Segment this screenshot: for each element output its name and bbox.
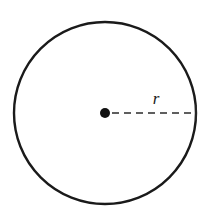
circle-radius-diagram: r <box>0 0 210 219</box>
radius-label: r <box>153 89 160 108</box>
center-dot <box>100 108 110 118</box>
diagram-canvas: r <box>0 0 210 219</box>
